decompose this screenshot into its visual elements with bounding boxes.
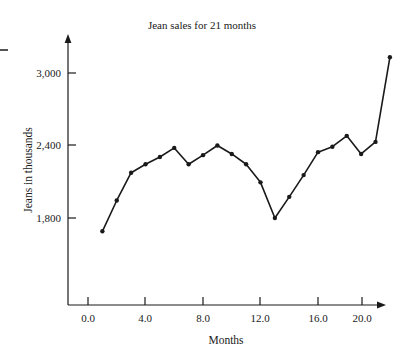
data-point <box>301 173 305 177</box>
x-tick-label-0: 0.0 <box>81 312 95 324</box>
data-point <box>330 145 334 149</box>
data-point <box>258 180 262 184</box>
chart-title: Jean sales for 21 months <box>148 19 256 31</box>
x-axis-arrowhead <box>377 302 386 309</box>
data-point <box>215 143 219 147</box>
data-point <box>388 55 392 59</box>
y-tick-label-2400: 2,400 <box>36 139 61 151</box>
data-point <box>201 153 205 157</box>
data-point <box>115 198 119 202</box>
data-point <box>158 155 162 159</box>
data-series-line <box>102 57 390 231</box>
data-point <box>273 216 277 220</box>
data-point <box>100 229 104 233</box>
y-axis <box>65 34 72 305</box>
y-axis-title: Jeans in thousands <box>22 127 34 213</box>
line-chart-svg: Jean sales for 21 months 1,800 2,400 3,0… <box>0 0 403 354</box>
x-tick-label-16: 16.0 <box>308 312 328 324</box>
y-tick-label-3000: 3,000 <box>36 67 61 79</box>
edge-artifact-mark <box>0 49 8 51</box>
data-point-markers <box>100 55 392 233</box>
x-axis <box>68 302 386 309</box>
x-tick-label-8: 8.0 <box>196 312 210 324</box>
data-point <box>373 140 377 144</box>
y-tick-marks <box>68 73 76 218</box>
data-point <box>186 162 190 166</box>
x-tick-label-20: 20.0 <box>352 312 372 324</box>
data-point <box>345 134 349 138</box>
x-tick-marks <box>88 297 362 305</box>
data-point <box>359 152 363 156</box>
data-point <box>316 150 320 154</box>
data-point <box>230 152 234 156</box>
y-axis-arrowhead <box>65 34 72 43</box>
x-axis-title: Months <box>208 334 244 346</box>
chart-figure: Jean sales for 21 months 1,800 2,400 3,0… <box>0 0 403 354</box>
data-point <box>143 162 147 166</box>
y-tick-label-1800: 1,800 <box>36 212 61 224</box>
data-point <box>244 162 248 166</box>
data-point <box>129 170 133 174</box>
data-point <box>172 146 176 150</box>
data-point <box>287 195 291 199</box>
x-tick-label-4: 4.0 <box>138 312 152 324</box>
x-tick-label-12: 12.0 <box>250 312 270 324</box>
